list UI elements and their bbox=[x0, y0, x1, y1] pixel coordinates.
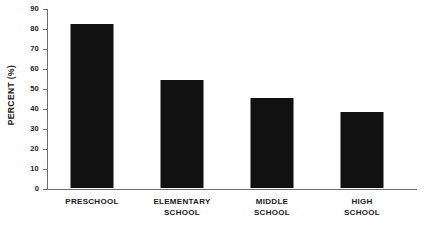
x-axis-category-label-line: ELEMENTARY bbox=[137, 196, 227, 207]
bar bbox=[251, 98, 294, 188]
y-axis-tick-label: 10 bbox=[30, 164, 39, 173]
x-axis-category-label: PRESCHOOL bbox=[47, 196, 137, 207]
y-axis-tick-label: 60 bbox=[30, 64, 39, 73]
x-axis-category-label-line: MIDDLE bbox=[227, 196, 317, 207]
y-axis-tick-label: 30 bbox=[30, 124, 39, 133]
y-axis-tick-label: 70 bbox=[30, 44, 39, 53]
bar-group bbox=[227, 8, 317, 189]
y-axis-tick-label: 90 bbox=[30, 4, 39, 13]
y-axis-tick-label: 50 bbox=[30, 84, 39, 93]
x-axis-line bbox=[45, 189, 417, 190]
x-axis-category-label-line: SCHOOL bbox=[137, 207, 227, 218]
x-axis-category-label: ELEMENTARYSCHOOL bbox=[137, 196, 227, 218]
y-axis-tick-label: 80 bbox=[30, 24, 39, 33]
x-axis-category-label-line: SCHOOL bbox=[317, 207, 407, 218]
x-axis-category-label: HIGHSCHOOL bbox=[317, 196, 407, 218]
bar-group bbox=[137, 8, 227, 189]
x-axis-category-label-line: SCHOOL bbox=[227, 207, 317, 218]
plot-area: 0102030405060708090 bbox=[47, 9, 407, 189]
y-axis-title: PERCENT (%) bbox=[0, 0, 22, 190]
y-axis-tick-label: 20 bbox=[30, 144, 39, 153]
x-axis-category-label: MIDDLESCHOOL bbox=[227, 196, 317, 218]
x-axis-category-label-line: PRESCHOOL bbox=[47, 196, 137, 207]
y-axis-tick-label: 0 bbox=[35, 184, 39, 193]
bar-group bbox=[47, 8, 137, 189]
bar bbox=[71, 24, 114, 188]
bar-chart: PERCENT (%) 0102030405060708090 PRESCHOO… bbox=[0, 0, 424, 231]
x-axis-category-label-line: HIGH bbox=[317, 196, 407, 207]
bar bbox=[341, 112, 384, 188]
bar bbox=[161, 80, 204, 188]
y-axis-tick-label: 40 bbox=[30, 104, 39, 113]
y-axis-tick-mark bbox=[43, 189, 47, 190]
y-axis-title-text: PERCENT (%) bbox=[6, 65, 16, 126]
x-axis-category-labels: PRESCHOOLELEMENTARYSCHOOLMIDDLESCHOOLHIG… bbox=[47, 196, 407, 230]
bar-group bbox=[317, 8, 407, 189]
